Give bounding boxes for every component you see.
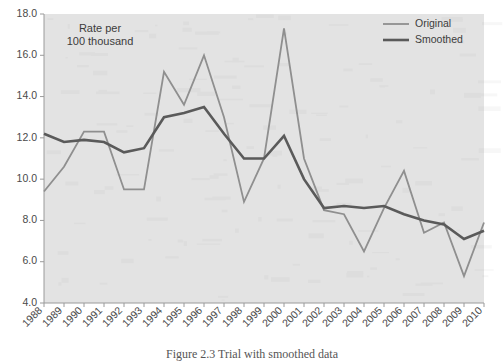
texture-speck <box>479 148 501 153</box>
texture-speck <box>345 179 363 184</box>
texture-speck <box>482 275 488 277</box>
texture-speck <box>93 71 107 75</box>
texture-speck <box>460 54 476 57</box>
texture-speck <box>264 275 268 279</box>
texture-speck <box>278 185 281 189</box>
texture-speck <box>65 182 78 186</box>
texture-speck <box>189 79 207 80</box>
texture-speck <box>244 65 264 67</box>
y-tick-label: 10.0 <box>17 172 38 184</box>
texture-speck <box>184 119 193 123</box>
texture-speck <box>205 198 226 201</box>
texture-speck <box>126 125 133 127</box>
texture-speck <box>77 65 89 67</box>
texture-speck <box>222 210 228 212</box>
texture-speck <box>61 90 80 94</box>
figure-caption: Figure 2.3 Trial with smoothed data <box>166 347 339 361</box>
texture-speck <box>47 150 61 154</box>
texture-speck <box>370 78 383 82</box>
texture-speck <box>277 219 293 222</box>
texture-speck <box>380 86 385 88</box>
texture-speck <box>308 280 321 283</box>
y-tick-label: 16.0 <box>17 48 38 60</box>
texture-speck <box>214 76 237 79</box>
texture-speck <box>478 93 498 96</box>
texture-speck <box>184 241 187 246</box>
texture-speck <box>235 229 239 233</box>
texture-speck <box>179 47 198 49</box>
texture-speck <box>218 296 228 298</box>
texture-speck <box>278 16 291 21</box>
texture-speck <box>214 173 228 175</box>
texture-speck <box>249 104 272 107</box>
texture-speck <box>309 233 324 238</box>
texture-speck <box>311 113 328 114</box>
texture-speck <box>148 239 151 241</box>
texture-speck <box>293 264 300 266</box>
texture-speck <box>183 22 189 26</box>
texture-speck <box>62 278 69 283</box>
texture-speck <box>337 183 349 185</box>
texture-speck <box>482 22 502 25</box>
texture-speck <box>313 220 336 222</box>
texture-speck <box>478 106 500 111</box>
texture-speck <box>68 24 70 29</box>
texture-speck <box>192 178 210 180</box>
texture-speck <box>366 135 368 139</box>
texture-speck <box>347 271 363 274</box>
texture-speck <box>91 53 108 56</box>
texture-speck <box>222 300 225 301</box>
texture-speck <box>232 86 240 89</box>
texture-speck <box>197 92 215 96</box>
texture-speck <box>421 283 443 285</box>
texture-speck <box>456 230 460 232</box>
y-tick-label: 8.0 <box>22 213 37 225</box>
texture-speck <box>256 15 274 18</box>
texture-speck <box>413 147 427 148</box>
texture-speck <box>147 218 168 221</box>
texture-speck <box>258 217 261 221</box>
texture-speck <box>183 28 192 32</box>
texture-speck <box>94 190 105 194</box>
texture-speck <box>370 267 377 269</box>
texture-speck <box>135 30 148 32</box>
texture-speck <box>320 138 331 141</box>
texture-speck <box>367 276 369 278</box>
texture-speck <box>195 32 219 35</box>
texture-speck <box>279 63 289 66</box>
texture-speck <box>121 259 133 263</box>
texture-speck <box>247 146 255 149</box>
annotation-line-2: 100 thousand <box>67 35 134 47</box>
texture-speck <box>343 69 352 72</box>
texture-speck <box>74 223 85 224</box>
texture-speck <box>396 120 402 123</box>
texture-speck <box>155 25 157 27</box>
texture-speck <box>329 24 349 26</box>
texture-speck <box>439 213 445 216</box>
texture-speck <box>66 57 68 58</box>
texture-speck <box>461 158 479 160</box>
legend-label-original: Original <box>415 17 451 29</box>
texture-speck <box>451 206 462 211</box>
chart-figure: 18.016.014.012.010.08.06.04.019881989199… <box>0 0 504 361</box>
texture-speck <box>271 277 290 282</box>
y-tick-label: 14.0 <box>17 89 38 101</box>
texture-speck <box>143 93 156 94</box>
texture-speck <box>223 159 226 161</box>
texture-speck <box>197 244 220 245</box>
texture-speck <box>248 18 253 20</box>
chart-svg: 18.016.014.012.010.08.06.04.019881989199… <box>0 0 504 361</box>
texture-speck <box>316 115 327 116</box>
y-tick-label: 6.0 <box>22 254 37 266</box>
texture-speck <box>358 230 378 232</box>
texture-speck <box>202 239 222 241</box>
texture-speck <box>156 197 161 202</box>
legend-label-smoothed: Smoothed <box>415 33 463 45</box>
texture-speck <box>116 130 127 132</box>
texture-speck <box>381 166 391 168</box>
texture-speck <box>415 181 432 185</box>
texture-speck <box>105 186 114 190</box>
texture-speck <box>100 283 108 285</box>
texture-speck <box>149 34 156 38</box>
texture-speck <box>97 123 118 125</box>
